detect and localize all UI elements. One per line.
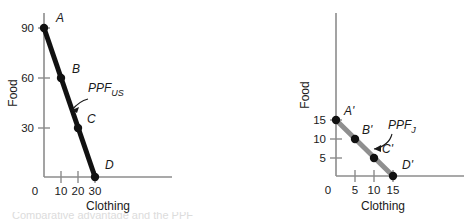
y-ticklabel-5-j: 5 xyxy=(320,152,326,164)
data-point-label-d-prime: D' xyxy=(402,158,414,172)
origin-label-j: 0 xyxy=(325,184,331,196)
data-point-label-c-prime: C' xyxy=(382,142,394,156)
ppf-us-line xyxy=(44,28,95,177)
data-point-d xyxy=(91,173,99,181)
y-ticklabel-10-j: 10 xyxy=(313,133,326,145)
x-ticklabel-10-j: 10 xyxy=(368,184,381,196)
data-point-label-b: B xyxy=(72,62,80,76)
series-annotation-ppf-us: PPFUS xyxy=(88,81,124,98)
data-point-b-prime xyxy=(351,135,359,143)
ppf-j-svg: 15 10 5 0 5 10 15 Clothing Food A' B' C'… xyxy=(236,0,472,219)
data-point-d-prime xyxy=(389,172,397,180)
series-annotation-ppf-us-sub: US xyxy=(111,88,124,98)
chart-panel-ppf-j: 15 10 5 0 5 10 15 Clothing Food A' B' C'… xyxy=(236,0,472,219)
origin-label-us: 0 xyxy=(32,185,38,197)
x-ticklabel-20-us: 20 xyxy=(72,185,85,197)
figure-caption-cutoff: Comparative advantage and the PPF xyxy=(0,212,472,219)
x-axis-title-us: Clothing xyxy=(86,199,130,213)
data-point-label-b-prime: B' xyxy=(362,123,373,137)
figure-caption-text: Comparative advantage and the PPF xyxy=(12,212,193,219)
y-ticklabel-15-j: 15 xyxy=(313,114,326,126)
y-ticklabel-60-us: 60 xyxy=(21,72,34,84)
annotation-arrowhead-j xyxy=(374,145,381,152)
y-axis-title-j: Food xyxy=(298,81,312,108)
series-annotation-ppf-j-main: PPF xyxy=(388,118,412,132)
ppf-us-svg: 90 60 30 0 10 20 30 Clothing Food A B C … xyxy=(0,0,236,219)
series-annotation-ppf-j-sub: J xyxy=(410,125,416,135)
y-axis-title-us: Food xyxy=(6,79,20,106)
data-point-c xyxy=(74,124,82,132)
annotation-arrow-us xyxy=(72,99,88,110)
ppf-comparison-figure: 90 60 30 0 10 20 30 Clothing Food A B C … xyxy=(0,0,472,219)
y-ticklabel-30-us: 30 xyxy=(21,122,34,134)
data-point-label-a-prime: A' xyxy=(343,104,355,118)
data-point-label-c: C xyxy=(87,112,96,126)
data-point-c-prime xyxy=(370,154,378,162)
chart-panel-ppf-us: 90 60 30 0 10 20 30 Clothing Food A B C … xyxy=(0,0,236,219)
x-ticklabel-15-j: 15 xyxy=(387,184,400,196)
x-axis-title-j: Clothing xyxy=(361,199,405,213)
x-ticklabel-10-us: 10 xyxy=(55,185,68,197)
series-annotation-ppf-us-main: PPF xyxy=(88,81,112,95)
x-ticklabel-30-us: 30 xyxy=(89,185,102,197)
data-point-label-a: A xyxy=(55,11,64,25)
data-point-b xyxy=(57,74,65,82)
data-point-a xyxy=(40,24,48,32)
data-point-a-prime xyxy=(332,116,340,124)
x-ticklabel-5-j: 5 xyxy=(352,184,358,196)
series-annotation-ppf-j: PPFJ xyxy=(388,118,416,135)
data-point-label-d: D xyxy=(105,158,114,172)
y-ticklabel-90-us: 90 xyxy=(21,22,34,34)
